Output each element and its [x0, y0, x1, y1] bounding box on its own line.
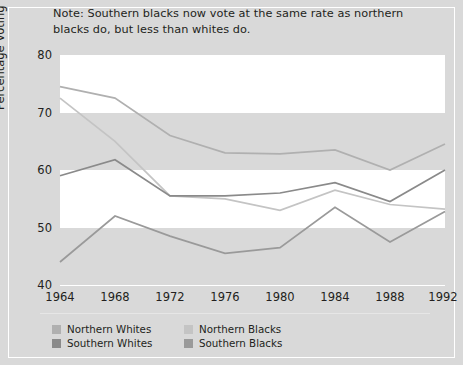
x-tick-1980: 1980: [265, 290, 294, 304]
line-southern-whites: [60, 160, 445, 202]
legend-divider: [40, 313, 430, 314]
y-tick-80: 80: [37, 48, 52, 62]
legend-item-southern-blacks: Southern Blacks: [184, 336, 302, 350]
series-lines: [60, 55, 445, 285]
x-tick-1988: 1988: [375, 290, 404, 304]
legend-item-northern-whites: Northern Whites: [52, 322, 170, 336]
line-southern-blacks: [60, 207, 445, 262]
plot-area-wrapper: 80 70 60 50 40 Percentage Voting 1964 19…: [0, 0, 463, 365]
legend-swatch-southern-whites: [52, 339, 61, 348]
legend-label-southern-blacks: Southern Blacks: [199, 337, 282, 349]
x-tick-1964: 1964: [45, 290, 74, 304]
y-tick-70: 70: [37, 106, 52, 120]
x-tick-1976: 1976: [210, 290, 239, 304]
legend-label-southern-whites: Southern Whites: [67, 337, 152, 349]
line-northern-whites: [60, 87, 445, 170]
x-tick-1992: 1992: [428, 290, 457, 304]
x-tick-1972: 1972: [155, 290, 184, 304]
legend-swatch-southern-blacks: [184, 339, 193, 348]
plot-area: [60, 55, 445, 285]
legend-swatch-northern-blacks: [184, 325, 193, 334]
y-axis-ticks: 80 70 60 50 40: [0, 0, 52, 365]
x-axis-line: [60, 285, 445, 286]
x-tick-1984: 1984: [320, 290, 349, 304]
y-tick-50: 50: [37, 221, 52, 235]
legend-swatch-northern-whites: [52, 325, 61, 334]
x-tick-1968: 1968: [100, 290, 129, 304]
chart-figure: Note: Southern blacks now vote at the sa…: [0, 0, 463, 365]
legend-label-northern-whites: Northern Whites: [67, 323, 151, 335]
y-tick-60: 60: [37, 163, 52, 177]
legend-item-northern-blacks: Northern Blacks: [184, 322, 302, 336]
legend-item-southern-whites: Southern Whites: [52, 336, 170, 350]
chart-legend: Northern Whites Northern Blacks Southern…: [52, 322, 372, 350]
y-axis-title: Percentage Voting: [0, 5, 7, 110]
legend-label-northern-blacks: Northern Blacks: [199, 323, 281, 335]
